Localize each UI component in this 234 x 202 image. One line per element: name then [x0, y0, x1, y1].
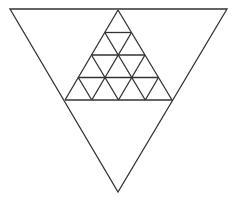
inner-subdivided-triangle — [65, 10, 172, 100]
nested-triangles-diagram — [0, 0, 234, 202]
grid-line-left-diagonal — [145, 78, 158, 101]
grid-line-right-diagonal — [78, 78, 92, 101]
